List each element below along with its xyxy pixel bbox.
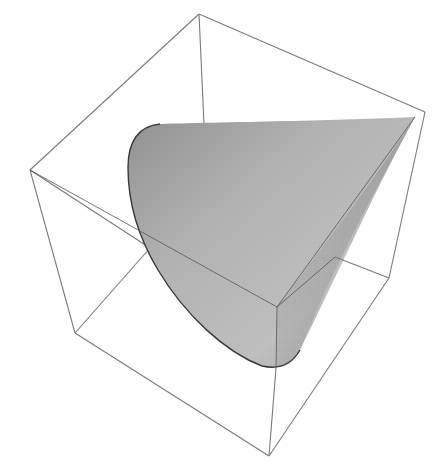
cone-texture (128, 117, 415, 367)
cone-surface (128, 117, 415, 367)
cone-plot-svg (0, 0, 442, 471)
box-edge-front-top-right (335, 257, 389, 278)
box-edge-bottomleft-inner (75, 248, 150, 333)
box-edge-top-back (199, 14, 204, 124)
plot-3d (0, 0, 442, 471)
box-edge-front-vertical (269, 368, 276, 456)
box-edge-top-right (199, 14, 425, 112)
